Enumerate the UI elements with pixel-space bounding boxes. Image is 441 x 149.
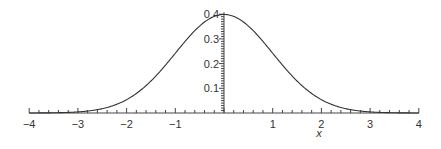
y-tick-label: 0.2 [204, 58, 219, 70]
x-tick-label: −1 [169, 118, 182, 130]
x-tick-label: 4 [416, 118, 422, 130]
y-tick-label: 0.1 [204, 82, 219, 94]
x-tick-label: −3 [72, 118, 85, 130]
x-tick-label: 3 [367, 118, 373, 130]
x-axis-title: x [315, 127, 322, 139]
y-tick-label: 0.4 [204, 8, 219, 20]
axes [29, 12, 419, 113]
x-tick-label: 1 [270, 118, 276, 130]
x-tick-label: −4 [23, 118, 36, 130]
x-tick-label: −2 [120, 118, 133, 130]
y-tick-label: 0.3 [204, 33, 219, 45]
normal-distribution-chart: −4−3−2−112340.10.20.30.4 x [0, 0, 441, 149]
